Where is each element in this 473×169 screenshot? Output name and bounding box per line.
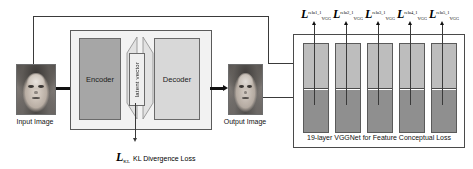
vgg-loss-superscript-5: relu5_1	[436, 10, 449, 15]
vgg-bar-relu3	[367, 43, 393, 133]
vgg-bar-relu4-top	[400, 44, 424, 88]
vgg-bar-relu5	[431, 43, 457, 133]
vggnet-container: 19-layer VGGNet for Feature Conceptual L…	[293, 34, 465, 148]
vgg-loss-label-1: Lrelu1_1VGG	[301, 7, 331, 22]
output-face-render	[229, 65, 262, 114]
vgg-loss-subscript-5: VGG	[449, 16, 458, 21]
vgg-loss-label-3: Lrelu3_1VGG	[365, 7, 395, 22]
kl-divergence-arrowhead	[133, 138, 137, 142]
vgg-bar-relu5-split	[432, 88, 456, 89]
vgg-loss-superscript-3: relu3_1	[372, 10, 385, 15]
input-face-right-eye	[38, 85, 44, 88]
vgg-bar-relu5-bottom	[432, 90, 456, 132]
vgg-bar-relu4	[399, 43, 425, 133]
decoder-to-output-shaft	[210, 87, 224, 90]
vae-perceptual-loss-diagram: Input Image Encoder latent vector Decode…	[0, 0, 473, 169]
vgg-loss-arrow-shaft-5	[442, 24, 443, 105]
vgg-loss-subscript-3: VGG	[385, 16, 394, 21]
input-face-nose	[34, 91, 37, 94]
decoder-block: Decoder	[154, 38, 200, 120]
encoder-label: Encoder	[86, 75, 114, 84]
vgg-loss-label-4: Lrelu4_1VGG	[397, 7, 427, 22]
input-face-render	[17, 65, 55, 114]
vgg-bar-relu4-split	[400, 88, 424, 89]
vgg-loss-subscript-4: VGG	[417, 16, 426, 21]
vgg-bar-relu5-top	[432, 44, 456, 88]
vgg-bar-relu2-split	[336, 88, 360, 89]
vgg-bar-relu1-split	[304, 88, 328, 89]
vggnet-caption: 19-layer VGGNet for Feature Conceptual L…	[294, 134, 464, 141]
vgg-loss-label-2: Lrelu2_1VGG	[333, 7, 363, 22]
output-image-thumbnail	[228, 64, 263, 115]
vgg-loss-arrow-shaft-1	[314, 24, 315, 105]
vgg-bar-relu1	[303, 43, 329, 133]
input-skip-line-down	[268, 16, 269, 63]
encoder-block: Encoder	[79, 38, 121, 120]
kl-loss-subscript: KL	[123, 159, 130, 164]
vgg-loss-subscript-1: VGG	[321, 16, 330, 21]
vgg-loss-arrow-shaft-4	[410, 24, 411, 105]
latent-vector-block: latent vector	[129, 53, 145, 106]
vgg-loss-subscript-2: VGG	[353, 16, 362, 21]
input-skip-line-top	[33, 16, 269, 17]
vae-container: Encoder latent vector Decoder	[70, 30, 212, 130]
vgg-bar-relu3-bottom	[368, 90, 392, 132]
vgg-loss-arrow-shaft-3	[378, 24, 379, 105]
vgg-loss-superscript-1: relu1_1	[308, 10, 321, 15]
vgg-bar-relu3-split	[368, 88, 392, 89]
kl-loss-text: KL Divergence Loss	[133, 155, 195, 162]
vgg-bar-relu2-top	[336, 44, 360, 88]
vgg-bar-relu1-top	[304, 44, 328, 88]
vgg-loss-superscript-4: relu4_1	[404, 10, 417, 15]
vgg-loss-superscript-2: relu2_1	[340, 10, 353, 15]
input-image-caption: Input Image	[6, 118, 64, 125]
vgg-loss-label-5: Lrelu5_1VGG	[429, 7, 459, 22]
decoder-label: Decoder	[163, 75, 191, 84]
input-image-thumbnail	[16, 64, 56, 115]
vgg-bar-relu4-bottom	[400, 90, 424, 132]
vgg-bar-relu2	[335, 43, 361, 133]
latent-vector-label: latent vector	[134, 62, 140, 97]
vgg-bar-relu1-bottom	[304, 90, 328, 132]
output-image-caption: Output Image	[215, 118, 275, 125]
vgg-bar-relu3-top	[368, 44, 392, 88]
kl-divergence-loss-label: LKLKL Divergence Loss	[116, 147, 195, 165]
vgg-bar-relu2-bottom	[336, 90, 360, 132]
vgg-loss-arrow-shaft-2	[346, 24, 347, 105]
kl-divergence-arrow-shaft	[135, 103, 136, 139]
